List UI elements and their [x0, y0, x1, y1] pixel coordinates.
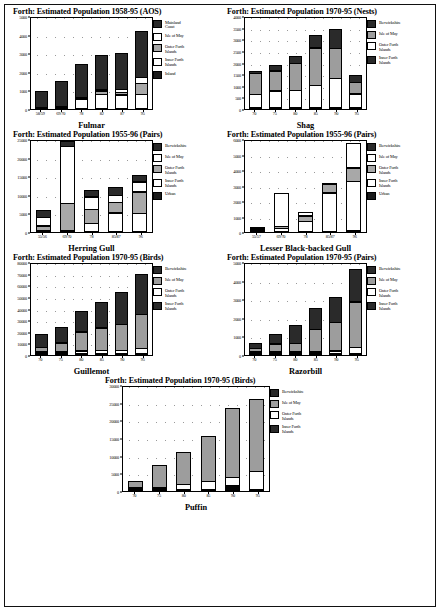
bar-75[interactable] — [152, 465, 167, 491]
bar-segment-inner-forth-islands — [55, 107, 68, 109]
legend-swatch — [153, 192, 162, 200]
bar-69/70[interactable] — [274, 194, 289, 232]
y-tick-label: 1000 — [233, 335, 241, 340]
bar-segment-inner-forth-islands — [75, 99, 88, 109]
plot-area: 0100002000030000400005000060000700008000… — [6, 263, 153, 376]
bar-80[interactable] — [176, 452, 191, 491]
bar-slot — [245, 264, 265, 355]
bar-95[interactable] — [135, 275, 148, 355]
x-tick-mark — [233, 492, 234, 494]
bar-segment-mainland-coast — [35, 91, 48, 108]
legend-label: Berwickshire — [379, 20, 401, 25]
bar-95[interactable] — [249, 400, 264, 491]
legend-label: Outer Forth Islands — [165, 44, 184, 54]
legend-item: Outer Forth Islands — [367, 42, 431, 52]
bar-80[interactable] — [289, 326, 302, 355]
bar-96[interactable] — [132, 176, 147, 232]
bar-segment-mainland-coast — [75, 64, 88, 98]
x-tick-mark — [254, 356, 255, 358]
x-tick-mark — [256, 233, 257, 235]
y-tick-label: 5000 — [233, 153, 241, 158]
x-tick-mark — [295, 110, 296, 112]
bar-80[interactable] — [75, 312, 88, 355]
bar-slot — [71, 18, 91, 109]
bar-segment-isle-of-may — [349, 82, 362, 94]
chart-puffin: Forth: Estimated Population 1970-95 (Bir… — [98, 376, 342, 512]
legend-label: Outer Forth Islands — [379, 42, 398, 52]
x-tick-mark — [92, 233, 93, 235]
bar-69/70[interactable] — [60, 141, 75, 232]
chart-category-label: Razorbill — [244, 367, 367, 376]
y-tick-label: 30000 — [17, 319, 27, 324]
bar-87[interactable] — [115, 54, 128, 109]
bar-segment-inner-forth-islands — [309, 107, 322, 109]
bar-segment-isle-of-may — [75, 332, 88, 352]
bar-slot — [123, 387, 147, 491]
bar-80[interactable] — [289, 57, 302, 109]
bar-75[interactable] — [269, 65, 282, 109]
bar-85/87[interactable] — [322, 183, 337, 232]
bar-70[interactable] — [249, 72, 262, 109]
bar-95[interactable] — [135, 32, 148, 109]
bar-58/59[interactable] — [35, 92, 48, 109]
legend-swatch — [153, 179, 162, 187]
bar-78[interactable] — [298, 212, 313, 232]
bar-55/57[interactable] — [250, 228, 265, 232]
bar-90[interactable] — [225, 409, 240, 491]
bar-95[interactable] — [349, 269, 362, 355]
bar-70[interactable] — [249, 343, 262, 355]
chart-body: 010002000300040005000707580859095Razorbi… — [220, 263, 434, 376]
bar-segment-inner-forth-islands — [225, 485, 240, 491]
bar-segment-outer-forth-islands — [289, 90, 302, 107]
bar-70[interactable] — [128, 482, 143, 491]
chart-fulmar: Forth: Estimated Population 1958-95 (AOS… — [6, 7, 220, 130]
chart-title: Forth: Estimated Population 1958-95 (AOS… — [13, 7, 220, 16]
legend-label: Outer Forth Islands — [379, 288, 398, 298]
plot-area: 0500100015002000250030003500400070758085… — [220, 17, 367, 130]
plot-area: 0500010000150002000025000300007075808590… — [98, 386, 270, 512]
bar-85[interactable] — [309, 36, 322, 109]
bar-segment-isle-of-may — [269, 71, 282, 91]
bar-70[interactable] — [35, 334, 48, 355]
bar-78[interactable] — [75, 65, 88, 109]
bar-slot — [132, 18, 152, 109]
x-tick-mark — [141, 233, 142, 235]
bar-69/70[interactable] — [55, 82, 68, 109]
bar-82[interactable] — [95, 56, 108, 109]
bar-segment-isle-of-may — [289, 63, 302, 90]
x-tick-mark — [61, 356, 62, 358]
bar-slot — [326, 264, 346, 355]
bar-85/87[interactable] — [108, 187, 123, 232]
bar-85[interactable] — [95, 303, 108, 355]
legend-item: Outer Forth Islands — [367, 288, 431, 298]
bar-75[interactable] — [269, 334, 282, 355]
chart-legend: BerwickshireIsle of MayOuter Forth Islan… — [153, 140, 217, 203]
legend-label: Outer Forth Islands — [165, 165, 184, 175]
bar-90[interactable] — [329, 298, 342, 355]
bar-segment-inner-forth-islands — [75, 353, 88, 355]
y-axis: 050001000015000200002500030000 — [98, 386, 120, 492]
bar-95[interactable] — [349, 75, 362, 109]
legend-swatch — [367, 179, 376, 187]
plot-box — [244, 140, 367, 233]
legend-label: Outer Forth Islands — [379, 165, 398, 175]
bar-78[interactable] — [84, 191, 99, 233]
x-tick-mark — [40, 110, 41, 112]
chart-category-label: Shag — [244, 121, 367, 130]
bar-slot — [79, 141, 103, 232]
bar-85[interactable] — [201, 436, 216, 491]
bar-96[interactable] — [346, 143, 361, 232]
bar-segment-outer-forth-islands — [60, 203, 75, 231]
bar-slot — [71, 264, 91, 355]
legend-swatch — [153, 302, 162, 310]
bar-75[interactable] — [55, 328, 68, 355]
bar-55/56[interactable] — [36, 210, 51, 232]
legend-label: Mainland Coast — [165, 20, 181, 30]
bar-90[interactable] — [329, 29, 342, 109]
legend-label: Isle of May — [379, 154, 398, 159]
bar-90[interactable] — [115, 292, 128, 355]
bar-segment-inner-forth-islands — [128, 489, 143, 491]
bar-85[interactable] — [309, 309, 322, 355]
bar-slot — [285, 18, 305, 109]
plot-area: 010002000300040005000600055/5769/707885/… — [220, 140, 367, 253]
